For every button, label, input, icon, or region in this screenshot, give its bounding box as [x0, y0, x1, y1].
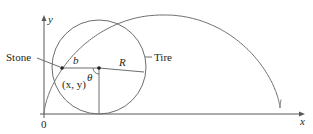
- b-label: b: [73, 54, 79, 66]
- origin-label: 0: [41, 118, 47, 130]
- stone-leader: [37, 58, 60, 67]
- cycloid-diagram: Stone Tire (x, y) b R θ y x 0: [0, 0, 313, 134]
- segment-R: [99, 68, 144, 72]
- cycloid-curve: [44, 15, 281, 114]
- stone-label: Stone: [6, 51, 31, 63]
- y-axis-label: y: [47, 13, 53, 25]
- x-axis-label: x: [299, 115, 305, 127]
- axes: [40, 15, 305, 118]
- tire-label: Tire: [154, 51, 172, 63]
- theta-label: θ: [87, 71, 93, 83]
- point-label: (x, y): [62, 78, 86, 91]
- y-axis-arrow-icon: [42, 15, 47, 21]
- R-label: R: [118, 56, 126, 68]
- stone-point: [60, 66, 64, 70]
- center-point: [97, 66, 101, 70]
